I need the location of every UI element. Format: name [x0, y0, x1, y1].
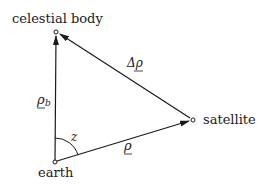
svg-text:b: b	[45, 98, 51, 108]
vector-delta-rho	[60, 34, 190, 118]
vector-rho-b	[55, 36, 56, 160]
svg-text:ρ: ρ	[36, 92, 45, 107]
earth-label: earth	[38, 165, 74, 180]
delta-rho-symbol: Δρ	[126, 56, 143, 71]
rho-symbol: ρ	[123, 138, 132, 154]
svg-text:Δρ: Δρ	[126, 56, 143, 70]
rho-b-symbol: ρ b	[36, 92, 51, 108]
svg-text:ρ: ρ	[123, 138, 132, 153]
celestial-body-label: celestial body	[12, 11, 103, 26]
satellite-label: satellite	[203, 112, 256, 127]
angle-z-label: z	[70, 130, 78, 144]
celestial-body-node	[54, 30, 58, 34]
earth-node	[53, 160, 57, 164]
satellite-node	[191, 118, 195, 122]
diagram-canvas: celestial body satellite earth ρ b ρ Δρ …	[0, 0, 264, 188]
